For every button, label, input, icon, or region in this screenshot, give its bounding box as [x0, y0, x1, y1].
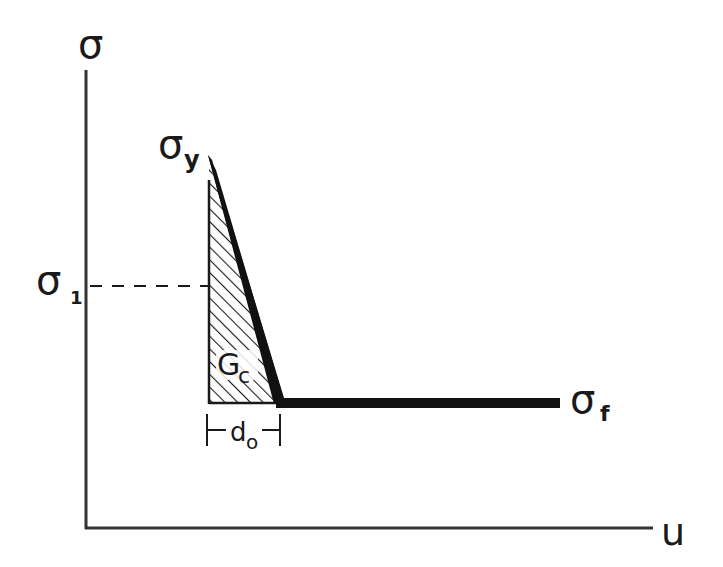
svg-text:f: f: [600, 401, 610, 426]
critical-displacement-label: d: [230, 417, 247, 447]
svg-text:G: G: [217, 347, 240, 382]
critical-displacement-dimension: d o: [207, 414, 280, 454]
sigma-f-label: σ f: [570, 376, 610, 426]
svg-text:1: 1: [70, 287, 83, 308]
sigma-y-label: σ y: [158, 121, 200, 174]
svg-text:σ: σ: [570, 376, 595, 422]
svg-text:o: o: [246, 430, 258, 454]
sigma-1-label: σ 1: [36, 257, 83, 308]
svg-text:c: c: [238, 363, 250, 388]
svg-text:σ: σ: [36, 257, 61, 303]
y-axis-label: σ: [78, 21, 103, 67]
stress-displacement-diagram: σ u σ 1 σ y G c σ f d o: [0, 0, 723, 567]
x-axis-label: u: [661, 510, 685, 554]
residual-plateau: [276, 398, 560, 408]
svg-text:y: y: [184, 146, 200, 174]
svg-text:σ: σ: [158, 121, 183, 167]
